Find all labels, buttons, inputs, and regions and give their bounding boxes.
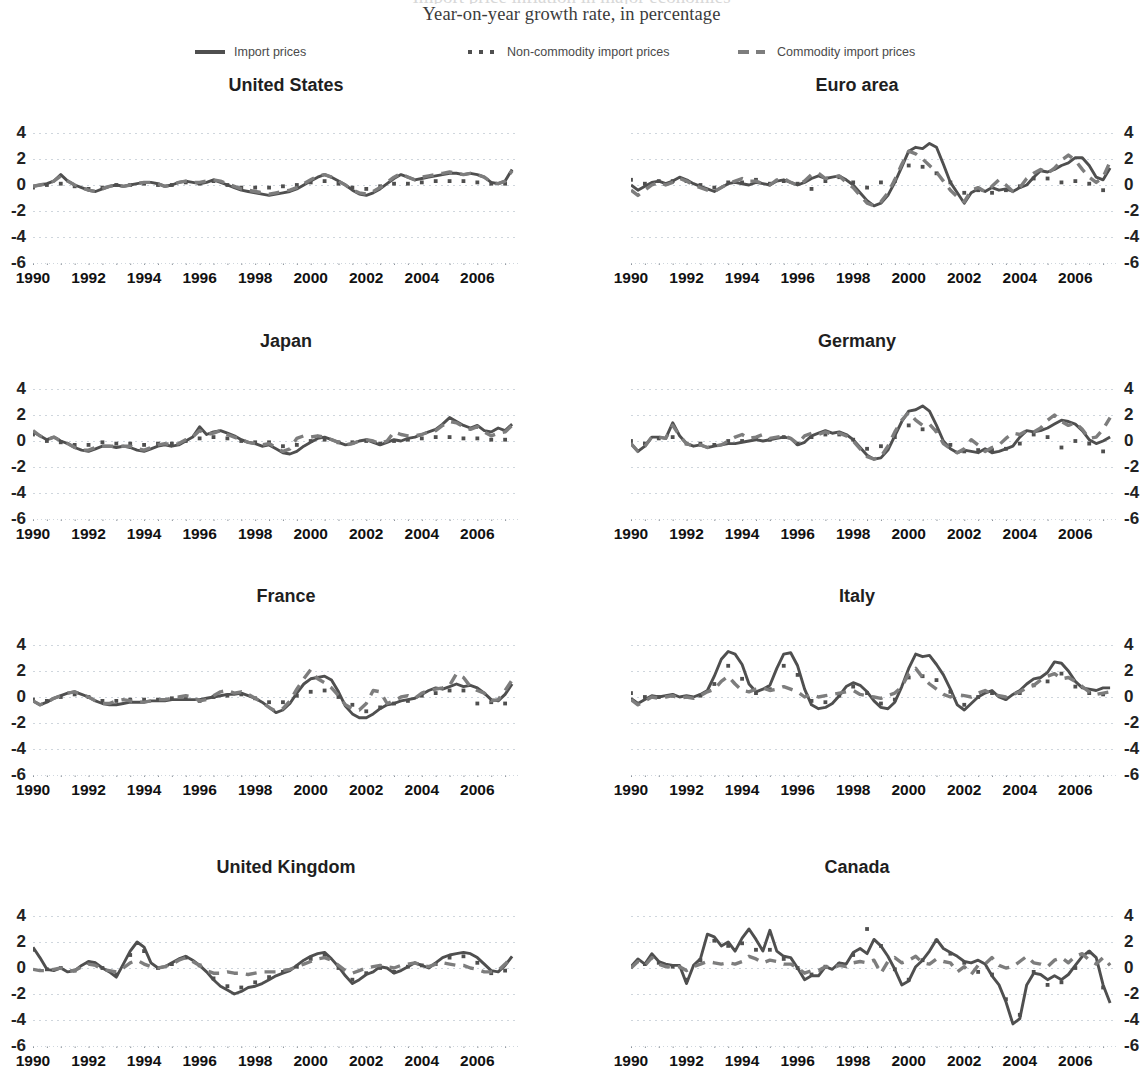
x-axis-tick-label: 1994	[714, 782, 770, 798]
x-axis-tick-label: 1990	[5, 270, 61, 286]
x-axis-tick-label: 1994	[714, 270, 770, 286]
data-point	[226, 437, 230, 441]
data-point	[726, 944, 730, 948]
data-point	[990, 191, 994, 195]
x-axis-tick-label: 2000	[881, 270, 937, 286]
series-line-dashed	[631, 954, 1110, 975]
data-point	[420, 964, 424, 968]
data-point	[503, 702, 507, 706]
data-point	[364, 709, 368, 713]
x-axis-tick-label: 1998	[825, 526, 881, 542]
data-point	[671, 965, 675, 969]
data-point	[824, 700, 828, 704]
y-axis-tick-label: -6	[1124, 510, 1143, 527]
x-axis-tick-label: 1992	[659, 1053, 715, 1069]
y-axis-tick-label: 4	[0, 124, 26, 141]
data-point	[962, 703, 966, 707]
x-axis-tick-label: 1998	[825, 782, 881, 798]
data-point	[475, 437, 479, 441]
series-line-solid	[33, 942, 512, 994]
data-point	[323, 689, 327, 693]
y-axis-tick-label: 0	[1124, 959, 1143, 976]
x-axis-tick-label: 2000	[881, 782, 937, 798]
data-point	[1087, 951, 1091, 955]
x-axis-tick-label: 1990	[5, 782, 61, 798]
series-line-solid	[33, 676, 512, 718]
y-axis-tick-label: -4	[0, 228, 26, 245]
dashed-line-swatch-icon	[738, 50, 768, 54]
data-point	[462, 437, 466, 441]
x-axis-tick-label: 1994	[116, 270, 172, 286]
data-point	[475, 181, 479, 185]
data-point	[142, 443, 146, 447]
legend-label-commodity: Commodity import prices	[777, 45, 915, 59]
data-point	[420, 181, 424, 185]
x-axis-tick-label: 1996	[770, 782, 826, 798]
y-axis-tick-label: -2	[0, 714, 26, 731]
data-point	[962, 961, 966, 965]
data-point	[1046, 177, 1050, 181]
data-point	[1004, 188, 1008, 192]
data-point	[253, 980, 257, 984]
data-point	[1018, 1013, 1022, 1017]
y-axis-tick-label: -4	[0, 484, 26, 501]
plot-area	[33, 645, 519, 777]
x-axis-tick-label: 1992	[61, 526, 117, 542]
data-point	[281, 184, 285, 188]
y-axis-tick-label: -4	[0, 1011, 26, 1028]
data-point	[114, 442, 118, 446]
y-axis-tick-label: -2	[1124, 202, 1143, 219]
data-point	[1060, 181, 1064, 185]
legend-item-import-prices: Import prices	[195, 41, 306, 63]
x-axis-tick-label: 1992	[659, 526, 715, 542]
y-axis-tick-label: -2	[0, 985, 26, 1002]
plot-area	[631, 133, 1117, 265]
x-axis-tick-label: 2002	[936, 270, 992, 286]
y-axis-tick-label: 2	[1124, 406, 1143, 423]
chart-title: Japan	[0, 331, 572, 352]
data-point	[657, 179, 661, 183]
data-point	[1046, 680, 1050, 684]
data-point	[475, 961, 479, 965]
data-point	[879, 944, 883, 948]
x-axis-tick-label: 2000	[283, 782, 339, 798]
data-point	[712, 682, 716, 686]
data-point	[810, 435, 814, 439]
data-point	[1073, 439, 1077, 443]
x-axis-tick-label: 1994	[714, 526, 770, 542]
data-point	[1101, 450, 1105, 454]
data-point	[475, 702, 479, 706]
legend-item-non-commodity: Non-commodity import prices	[468, 41, 670, 63]
y-axis-tick-label: -6	[1124, 766, 1143, 783]
data-point	[226, 694, 230, 698]
chart-legend: Import prices Non-commodity import price…	[0, 41, 1143, 63]
data-point	[392, 439, 396, 443]
data-point	[59, 182, 63, 186]
x-axis-tick-label: 2000	[283, 270, 339, 286]
data-point	[657, 695, 661, 699]
y-axis-tick-label: -2	[1124, 458, 1143, 475]
x-axis-tick-label: 2004	[394, 270, 450, 286]
plot-area	[33, 389, 519, 521]
data-point	[45, 439, 49, 443]
data-point	[1101, 986, 1105, 990]
data-point	[1073, 179, 1077, 183]
data-point	[212, 977, 216, 981]
data-point	[962, 191, 966, 195]
x-axis-tick-label: 2004	[394, 526, 450, 542]
data-point	[865, 691, 869, 695]
x-axis-tick-label: 2000	[283, 1053, 339, 1069]
data-point	[378, 706, 382, 710]
x-axis-tick-label: 1994	[714, 1053, 770, 1069]
data-point	[1087, 182, 1091, 186]
x-axis-tick-label: 1992	[61, 270, 117, 286]
x-axis-tick-label: 1994	[116, 1053, 172, 1069]
data-point	[865, 447, 869, 451]
x-axis-tick-label: 2004	[992, 1053, 1048, 1069]
data-point	[87, 443, 91, 447]
data-point	[768, 948, 772, 952]
data-point	[796, 673, 800, 677]
data-point	[976, 970, 980, 974]
data-point	[170, 696, 174, 700]
data-point	[699, 958, 703, 962]
